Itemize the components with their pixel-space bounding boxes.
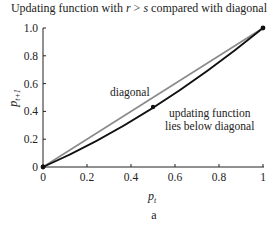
point-end (261, 26, 266, 31)
diagonal-line (43, 28, 263, 167)
svg-text:pt+1: pt+1 (6, 89, 22, 108)
svg-text:0.2: 0.2 (80, 171, 95, 183)
svg-text:0.8: 0.8 (212, 171, 227, 183)
svg-text:0: 0 (40, 171, 46, 183)
svg-text:1.0: 1.0 (24, 22, 39, 34)
x-axis-label: pt (147, 189, 157, 205)
svg-text:0: 0 (32, 161, 38, 173)
svg-text:0.2: 0.2 (24, 133, 39, 145)
svg-text:1: 1 (260, 171, 266, 183)
annotation-diagonal: diagonal (110, 86, 150, 99)
svg-text:0.6: 0.6 (168, 171, 183, 183)
point-midpoint (151, 105, 155, 109)
chart-figure: Updating function with r > s compared wi… (0, 0, 278, 234)
annotation-updating-function-2: lies below diagonal (165, 120, 254, 133)
y-tick-labels: 0 0.2 0.4 0.6 0.8 1.0 (24, 22, 39, 173)
svg-text:0.4: 0.4 (124, 171, 139, 183)
point-origin (41, 165, 46, 170)
panel-label: a (151, 208, 157, 222)
svg-text:0.8: 0.8 (24, 50, 39, 62)
svg-text:0.4: 0.4 (24, 105, 39, 117)
annotation-updating-function-1: updating function (169, 107, 251, 120)
svg-text:0.6: 0.6 (24, 78, 39, 90)
plot-area: 0 0.2 0.4 0.6 0.8 1.0 0 0.2 0.4 0.6 0.8 … (0, 0, 278, 234)
y-axis-label: pt+1 (6, 89, 22, 108)
x-tick-labels: 0 0.2 0.4 0.6 0.8 1 (40, 171, 266, 183)
